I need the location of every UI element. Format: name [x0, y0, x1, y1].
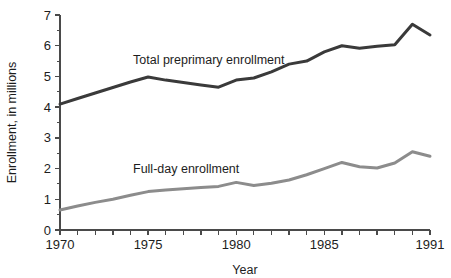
x-tick-label: 1985 [310, 237, 339, 252]
x-tick-label: 1970 [46, 237, 75, 252]
x-tick-label: 1975 [134, 237, 163, 252]
x-axis-title: Year [232, 263, 257, 277]
y-tick-label: 2 [44, 161, 51, 176]
chart-container: 01234567 19701975198019851991 YearEnroll… [0, 0, 451, 278]
line-chart: 01234567 19701975198019851991 YearEnroll… [0, 0, 451, 278]
y-axis: 01234567 [44, 8, 60, 238]
y-tick-label: 4 [44, 100, 51, 115]
x-tick-label: 1980 [222, 237, 251, 252]
series-annotations-group: Total preprimary enrollmentFull-day enro… [133, 53, 285, 176]
y-tick-label: 7 [44, 8, 51, 23]
y-tick-label: 0 [44, 223, 51, 238]
y-tick-label: 5 [44, 69, 51, 84]
y-tick-label: 6 [44, 38, 51, 53]
series-annotation-1: Total preprimary enrollment [133, 53, 285, 67]
series-line-2 [60, 152, 430, 210]
x-axis: 19701975198019851991 [46, 230, 445, 252]
y-tick-label: 1 [44, 192, 51, 207]
series-annotation-2: Full-day enrollment [133, 162, 240, 176]
y-axis-title: Enrollment, in millions [5, 62, 19, 184]
y-tick-label: 3 [44, 130, 51, 145]
x-tick-label: 1991 [416, 237, 445, 252]
